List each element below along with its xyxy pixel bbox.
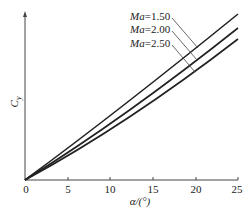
svg-text:Cy: Cy <box>8 96 23 107</box>
chart: 0 5 10 15 20 25 α/(°) Cy Ma=1.50 Ma=2.00… <box>0 0 251 212</box>
x-axis-label: α/(°) <box>130 195 151 208</box>
x-tick-label: 25 <box>232 183 244 195</box>
x-tick-label: 0 <box>23 183 29 195</box>
x-tick-label: 10 <box>105 183 117 195</box>
y-axis-label: Cy <box>8 96 23 107</box>
x-tick-label: 20 <box>191 183 203 195</box>
x-tick-label: 15 <box>148 183 160 195</box>
legend-ma-1-50: Ma=1.50 <box>129 10 171 22</box>
leader-line-2-00 <box>172 31 197 60</box>
leader-line-2-50 <box>172 45 195 72</box>
leader-line-1-50 <box>172 18 198 48</box>
x-tick-label: 5 <box>65 183 71 195</box>
legend-ma-2-00: Ma=2.00 <box>129 23 171 35</box>
y-axis-arrow-icon <box>23 11 27 17</box>
legend-ma-2-50: Ma=2.50 <box>129 37 171 49</box>
